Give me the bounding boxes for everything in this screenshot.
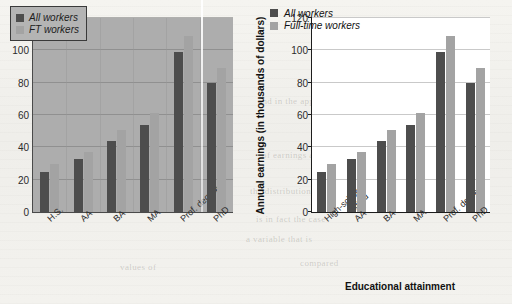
bar [416,113,425,212]
legend-item: FT workers [16,24,79,35]
y-axis-tick-label: 40 [18,142,29,153]
plot-area-left: 020406080100120H.S.AABAMAProf. degreePhD [32,18,233,213]
legend-label: Full-time workers [284,20,360,31]
gridline [312,146,490,147]
y-axis-title-right-text: Annual earnings (in thousands of dollars… [256,16,267,214]
y-axis-tick-mark [308,179,312,180]
y-axis-tick-label: 80 [18,77,29,88]
legend-label: All workers [284,8,333,19]
bar [107,141,116,212]
vertical-gridline [100,18,101,212]
legend-swatch [270,22,278,30]
y-axis-tick-label: 100 [12,45,29,56]
y-axis-tick-label: 20 [297,174,308,185]
legend-label: FT workers [29,24,79,35]
x-axis-title-right: Educational attainment [311,281,489,292]
bar [184,36,193,212]
legend-left: All workersFT workers [10,6,87,41]
bar [476,68,485,212]
legend-swatch [270,9,278,17]
y-axis-tick-label: 100 [291,45,308,56]
gridline [312,49,490,50]
scan-artifact-line [201,0,203,212]
bar [84,152,93,212]
y-axis-tick-label: 80 [297,77,308,88]
legend-item: All workers [16,12,79,23]
gridline [312,114,490,115]
y-axis-tick-label: 40 [297,142,308,153]
bar [347,159,356,212]
legend-label: All workers [29,12,78,23]
bar [207,83,216,212]
plot-area-right: 020406080100120High-schoolgradAABAMAProf… [311,18,490,213]
vertical-gridline [133,18,134,212]
legend-swatch [16,14,24,22]
y-axis-tick-mark [308,211,312,212]
chart-left: 020406080100120H.S.AABAMAProf. degreePhD… [0,0,248,304]
bar [357,152,366,212]
bar [436,52,445,212]
bar [140,125,149,212]
legend-item: Full-time workers [270,20,360,31]
y-axis-tick-label: 0 [23,207,29,218]
bar [217,68,226,212]
y-axis-tick-mark [308,82,312,83]
legend-swatch [16,26,24,34]
vertical-gridline [66,18,67,212]
y-axis-tick-label: 60 [297,110,308,121]
chart-right: 020406080100120High-schoolgradAABAMAProf… [248,0,512,304]
bar [150,113,159,212]
bar [466,83,475,212]
y-axis-tick-mark [308,114,312,115]
y-axis-tick-mark [308,146,312,147]
legend-right: All workersFull-time workers [270,6,360,33]
gridline [312,179,490,180]
bar [446,36,455,212]
bar [74,159,83,212]
bar [406,125,415,212]
vertical-gridline [166,18,167,212]
gridline [312,82,490,83]
legend-item: All workers [270,8,360,19]
bar [377,141,386,212]
y-axis-title-right: Annual earnings (in thousands of dollars… [254,18,268,212]
bar [387,130,396,212]
bar [174,52,183,212]
bar [40,172,49,212]
y-axis-tick-label: 60 [18,110,29,121]
bar [117,130,126,212]
y-axis-tick-mark [308,49,312,50]
y-axis-tick-label: 20 [18,174,29,185]
y-axis-tick-label: 0 [302,207,308,218]
bar [317,172,326,212]
